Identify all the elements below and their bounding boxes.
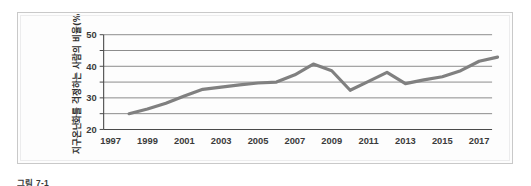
y-tick-label: 30 bbox=[86, 93, 96, 103]
x-tick-label: 2013 bbox=[395, 136, 416, 146]
x-tick-label: 1999 bbox=[137, 136, 158, 146]
data-series-line bbox=[129, 57, 498, 114]
y-tick-label: 20 bbox=[86, 125, 96, 135]
chart-panel: 50 40 30 20 지구온난화를 걱정하는 사람의 비율(%) 1997 1… bbox=[17, 12, 513, 164]
x-tick-label: 2009 bbox=[321, 136, 342, 146]
x-tick-label: 2001 bbox=[174, 136, 195, 146]
x-tick-label: 2007 bbox=[284, 136, 305, 146]
x-tick-label: 2011 bbox=[358, 136, 378, 146]
y-tick-marks bbox=[100, 35, 104, 130]
figure-caption: 그림 7-1 bbox=[17, 176, 49, 186]
x-tick-label: 2017 bbox=[469, 136, 490, 146]
y-tick-label: 40 bbox=[86, 62, 96, 72]
x-tick-label: 2005 bbox=[248, 136, 269, 146]
x-tick-label: 2003 bbox=[211, 136, 232, 146]
figure-root: 50 40 30 20 지구온난화를 걱정하는 사람의 비율(%) 1997 1… bbox=[0, 0, 531, 186]
x-tick-label: 1997 bbox=[100, 136, 121, 146]
line-chart: 50 40 30 20 지구온난화를 걱정하는 사람의 비율(%) 1997 1… bbox=[18, 13, 512, 163]
y-axis-title: 지구온난화를 걱정하는 사람의 비율(%) bbox=[72, 13, 82, 154]
y-tick-label: 50 bbox=[86, 30, 96, 40]
x-tick-label: 2015 bbox=[432, 136, 453, 146]
